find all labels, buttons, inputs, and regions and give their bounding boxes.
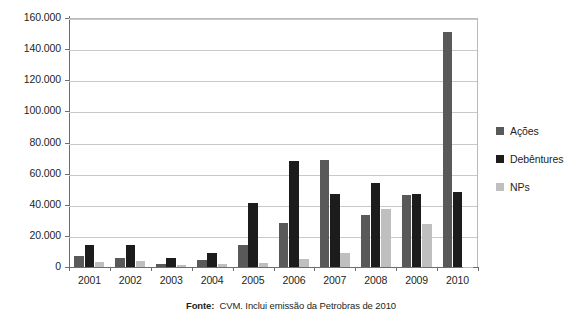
x-axis-tick-label: 2009 xyxy=(396,274,437,286)
legend-swatch-debentures xyxy=(496,155,504,163)
bar xyxy=(443,32,453,267)
bar xyxy=(320,160,330,267)
x-axis-tick xyxy=(233,267,234,271)
bar xyxy=(207,253,217,267)
bar-group xyxy=(279,18,309,267)
y-axis-tick-label: 60.000 xyxy=(0,167,61,179)
bar xyxy=(156,264,166,267)
bar xyxy=(299,259,309,267)
bar xyxy=(166,258,176,267)
bar xyxy=(453,192,463,267)
chart-figure: 020.00040.00060.00080.000100.000120.0001… xyxy=(0,0,582,316)
x-axis-tick-label: 2001 xyxy=(69,274,110,286)
bar-group xyxy=(115,18,145,267)
x-axis-tick xyxy=(274,267,275,271)
x-axis-tick xyxy=(314,267,315,271)
x-axis-tick xyxy=(437,267,438,271)
x-axis-tick-label: 2007 xyxy=(314,274,355,286)
bar xyxy=(422,224,432,267)
bar-groups xyxy=(69,18,478,267)
y-axis-tick-label: 0 xyxy=(0,260,61,272)
y-axis-tick-label: 100.000 xyxy=(0,104,61,116)
y-axis-tick-label: 80.000 xyxy=(0,136,61,148)
bar xyxy=(218,264,228,267)
bar xyxy=(238,245,248,267)
x-axis-tick-label: 2010 xyxy=(437,274,478,286)
x-axis-tick-label: 2002 xyxy=(110,274,151,286)
legend-swatch-acoes xyxy=(496,127,504,135)
legend-swatch-nps xyxy=(496,183,504,191)
bar xyxy=(177,265,187,267)
y-axis-tick-label: 20.000 xyxy=(0,229,61,241)
legend-label-nps: NPs xyxy=(510,181,530,193)
source-prefix: Fonte: xyxy=(186,300,214,311)
bar xyxy=(361,215,371,267)
x-axis-tick xyxy=(192,267,193,271)
bar xyxy=(381,209,391,267)
bar xyxy=(259,263,269,267)
chart-legend: Ações Debêntures NPs xyxy=(496,120,582,204)
legend-label-acoes: Ações xyxy=(510,125,539,137)
x-axis-tick-label: 2006 xyxy=(274,274,315,286)
y-axis-tick-label: 40.000 xyxy=(0,198,61,210)
bar xyxy=(126,245,136,267)
bar xyxy=(197,260,207,267)
bar-group xyxy=(74,18,104,267)
bar-group xyxy=(402,18,432,267)
source-text: CVM. Inclui emissão da Petrobras de 2010 xyxy=(219,300,396,311)
x-axis-tick-label: 2008 xyxy=(355,274,396,286)
bar xyxy=(340,253,350,267)
bar xyxy=(402,195,412,267)
x-axis-tick xyxy=(478,267,479,271)
bar-group xyxy=(443,18,473,267)
bar-group xyxy=(197,18,227,267)
bar xyxy=(330,194,340,267)
bar xyxy=(115,258,125,267)
x-axis-tick xyxy=(69,267,70,271)
bar-group xyxy=(156,18,186,267)
bar xyxy=(248,203,258,267)
legend-item-nps: NPs xyxy=(496,176,582,198)
bar xyxy=(136,261,146,267)
bar-group xyxy=(320,18,350,267)
bar-group xyxy=(361,18,391,267)
legend-item-acoes: Ações xyxy=(496,120,582,142)
x-axis-tick xyxy=(355,267,356,271)
bar xyxy=(95,262,105,267)
x-axis-tick xyxy=(396,267,397,271)
y-axis-tick-label: 140.000 xyxy=(0,42,61,54)
bar-group xyxy=(238,18,268,267)
bar xyxy=(463,267,473,268)
bar xyxy=(371,183,381,267)
bar xyxy=(289,161,299,267)
x-axis-tick xyxy=(151,267,152,271)
x-axis-tick-label: 2005 xyxy=(233,274,274,286)
y-axis-tick-label: 120.000 xyxy=(0,73,61,85)
legend-item-debentures: Debêntures xyxy=(496,148,582,170)
y-axis-tick-label: 160.000 xyxy=(0,11,61,23)
legend-label-debentures: Debêntures xyxy=(510,153,563,165)
source-note: Fonte: CVM. Inclui emissão da Petrobras … xyxy=(0,300,582,311)
x-axis-tick xyxy=(110,267,111,271)
bar xyxy=(279,223,289,267)
bar xyxy=(74,256,84,267)
bar xyxy=(412,194,422,267)
x-axis-tick-label: 2004 xyxy=(192,274,233,286)
bar xyxy=(85,245,95,267)
x-axis-tick-label: 2003 xyxy=(151,274,192,286)
